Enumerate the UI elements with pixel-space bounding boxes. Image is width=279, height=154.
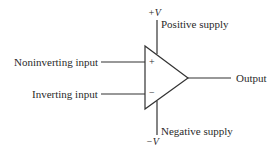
minus-sign: − — [149, 87, 155, 99]
plus-v-label: +V — [148, 7, 161, 19]
plus-sign: + — [149, 56, 155, 68]
minus-v-label: −V — [146, 136, 159, 148]
inverting-input-label: Inverting input — [32, 88, 98, 100]
negative-supply-label: Negative supply — [161, 125, 233, 137]
positive-supply-label: Positive supply — [161, 18, 229, 30]
output-label: Output — [236, 72, 267, 84]
noninverting-input-label: Noninverting input — [14, 56, 98, 68]
